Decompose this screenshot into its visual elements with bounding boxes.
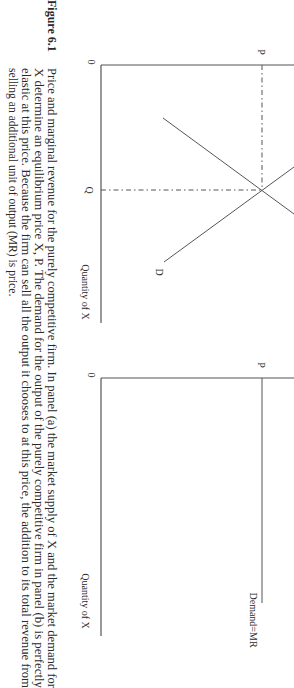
figure-number: Figure 6.1 xyxy=(45,0,59,52)
caption-line-1: Price and marginal revenue for the purel… xyxy=(45,68,58,688)
panel-b-x-axis-label: Quantity of X xyxy=(80,573,91,629)
panel-a-price-label: P xyxy=(256,49,267,55)
panel-a-x-axis-label: Quantity of X xyxy=(80,264,91,320)
caption-line-3: elastic at this price. Because the firm … xyxy=(19,68,32,688)
figure-6-1: 0 P Q D Quantity of X 0 P Demand=MR Quan… xyxy=(0,0,294,688)
panel-a-demand-label: D xyxy=(154,268,165,275)
panel-b: 0 P Demand=MR Quantity of X xyxy=(80,362,294,648)
caption-line-4: selling an additional unit of output (MR… xyxy=(6,68,19,296)
panel-b-origin-label: 0 xyxy=(86,373,97,378)
panel-a-supply-curve xyxy=(163,118,294,214)
panel-b-demand-label: Demand=MR xyxy=(248,592,259,647)
panel-a-origin-label: 0 xyxy=(86,60,97,65)
caption-line-2: X determine an equilibrium price X, P. T… xyxy=(32,68,45,688)
panel-a-quantity-label: Q xyxy=(84,186,95,194)
panel-b-price-label: P xyxy=(256,362,267,368)
figure-caption: Figure 6.1 Price and marginal revenue fo… xyxy=(6,0,59,688)
panel-a: 0 P Q D Quantity of X xyxy=(80,49,294,323)
panel-a-demand-curve xyxy=(164,167,294,262)
